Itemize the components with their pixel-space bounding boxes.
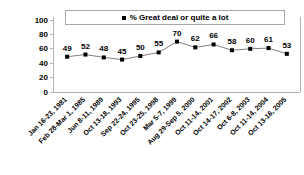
y-axis-tick-label: 60 bbox=[39, 44, 48, 53]
data-point-label: 53 bbox=[282, 41, 291, 50]
data-point-label: 61 bbox=[264, 35, 273, 44]
data-point-label: 45 bbox=[118, 47, 127, 56]
data-point-label: 48 bbox=[99, 44, 108, 53]
data-point-marker bbox=[175, 40, 179, 44]
data-point-label: 52 bbox=[81, 42, 90, 51]
data-point-marker bbox=[102, 55, 106, 59]
data-point-marker bbox=[120, 58, 124, 62]
data-point-label: 70 bbox=[173, 29, 182, 38]
category-axis-labels: Jan 16-23, 1981Feb 28-Mar 1, 1985Jun 8-1… bbox=[27, 96, 289, 147]
data-point-marker bbox=[83, 53, 87, 57]
data-point-label: 66 bbox=[209, 31, 218, 40]
data-point-marker bbox=[285, 52, 289, 56]
y-axis-tick-label: 0 bbox=[44, 88, 49, 97]
plot-area: 020406080100 49524845505570626658606153 … bbox=[0, 0, 304, 175]
data-point-marker bbox=[193, 45, 197, 49]
data-point-label: 58 bbox=[227, 37, 236, 46]
data-point-marker bbox=[248, 47, 252, 51]
data-point-marker bbox=[230, 48, 234, 52]
y-axis-tick-label: 20 bbox=[39, 73, 48, 82]
data-point-marker bbox=[138, 54, 142, 58]
y-axis-tick-label: 80 bbox=[39, 30, 48, 39]
data-point-label: 50 bbox=[136, 43, 145, 52]
y-axis-tick-label: 100 bbox=[35, 16, 49, 25]
data-point-marker bbox=[212, 42, 216, 46]
data-point-label: 49 bbox=[63, 44, 72, 53]
data-point-label: 62 bbox=[191, 34, 200, 43]
data-point-label: 60 bbox=[246, 36, 255, 45]
y-axis: 020406080100 bbox=[35, 16, 53, 97]
data-point-marker bbox=[267, 46, 271, 50]
data-point-marker bbox=[65, 55, 69, 59]
data-point-marker bbox=[157, 50, 161, 54]
y-axis-tick-label: 40 bbox=[39, 59, 48, 68]
chart-container: % Great deal or quite a lot 020406080100… bbox=[0, 0, 304, 175]
data-point-label: 55 bbox=[154, 39, 163, 48]
